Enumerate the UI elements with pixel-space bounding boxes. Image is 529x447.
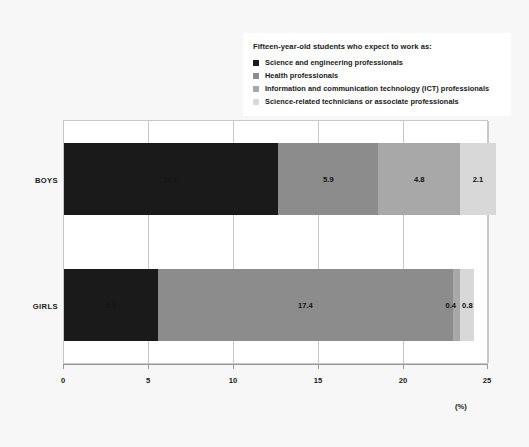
plot-area: 12.6 5.9 4.8 2.1 5.5 17.4 0.4 (63, 120, 488, 364)
legend-item-label: Science-related technicians or associate… (265, 97, 459, 106)
bar-segment-science-technicians: 0.8 (460, 269, 474, 341)
axis-tick-label: 25 (483, 376, 491, 385)
bar-segment-value: 17.4 (298, 301, 313, 310)
bar-segment-value: 0.8 (462, 301, 473, 310)
axis-tick (487, 364, 488, 369)
bar-segment-health: 5.9 (278, 143, 378, 215)
axis-tick (63, 364, 64, 369)
legend-item-science-engineering: Science and engineering professionals (253, 58, 501, 67)
bar-segment-value: 0.4 (446, 301, 457, 310)
legend-swatch-icon (253, 73, 259, 79)
bar-segment-value: 2.1 (473, 175, 484, 184)
chart-figure: Fifteen-year-old students who expect to … (0, 0, 529, 447)
bar-segment-science-technicians: 2.1 (460, 143, 496, 215)
axis-tick-label: 0 (61, 376, 65, 385)
bar-segment-ict: 0.4 (453, 269, 460, 341)
chart-legend: Fifteen-year-old students who expect to … (243, 33, 511, 116)
bar-segment-value: 4.8 (414, 175, 425, 184)
legend-item-science-technicians: Science-related technicians or associate… (253, 97, 501, 106)
legend-item-label: Information and communication technology… (265, 84, 489, 93)
bar-segment-science-engineering: 5.5 (64, 269, 158, 341)
bar-segment-health: 17.4 (158, 269, 454, 341)
legend-item-ict: Information and communication technology… (253, 84, 501, 93)
bar-segment-value: 5.9 (323, 175, 334, 184)
axis-tick-label: 20 (399, 376, 407, 385)
legend-item-label: Science and engineering professionals (265, 58, 403, 67)
bar-segment-value: 12.6 (164, 175, 179, 184)
axis-tick (233, 364, 234, 369)
legend-swatch-icon (253, 86, 259, 92)
x-axis: 0 5 10 15 20 25 (63, 364, 488, 365)
axis-unit-label: (%) (455, 402, 467, 411)
axis-tick (318, 364, 319, 369)
bar-segment-value: 5.5 (105, 301, 116, 310)
category-label-boys: BOYS (8, 176, 58, 185)
legend-item-label: Health professionals (265, 71, 338, 80)
axis-tick-label: 5 (146, 376, 150, 385)
bar-segment-ict: 4.8 (378, 143, 460, 215)
legend-item-health: Health professionals (253, 71, 501, 80)
axis-tick-label: 10 (229, 376, 237, 385)
legend-swatch-icon (253, 60, 259, 66)
axis-tick (403, 364, 404, 369)
axis-tick (148, 364, 149, 369)
category-label-girls: GIRLS (8, 302, 58, 311)
axis-tick-label: 15 (314, 376, 322, 385)
legend-swatch-icon (253, 99, 259, 105)
legend-title: Fifteen-year-old students who expect to … (253, 42, 501, 51)
bar-segment-science-engineering: 12.6 (64, 143, 278, 215)
bar-girls: 5.5 17.4 0.4 0.8 (64, 269, 474, 341)
bar-boys: 12.6 5.9 4.8 2.1 (64, 143, 496, 215)
